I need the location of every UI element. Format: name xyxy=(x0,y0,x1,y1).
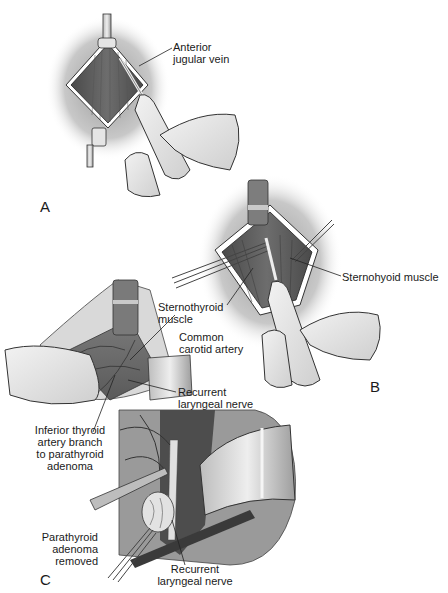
surgeon-thumb xyxy=(125,152,160,196)
surgical-illustration xyxy=(0,0,448,593)
panel-letter-a: A xyxy=(40,198,50,215)
label-recurrent-laryngeal-nerve-upper: Recurrent laryngeal nerve xyxy=(178,386,253,410)
lower-retractor xyxy=(92,128,106,146)
label-inferior-thyroid-artery-branch: Inferior thyroid artery branch to parath… xyxy=(20,424,120,472)
panel-letter-c: C xyxy=(40,571,51,588)
label-common-carotid-artery: Common carotid artery xyxy=(179,331,243,355)
label-sternohyoid-muscle: Sternohyoid muscle xyxy=(342,271,439,283)
parathyroid-adenoma xyxy=(142,492,174,532)
label-recurrent-laryngeal-nerve-lower: Recurrent laryngeal nerve xyxy=(150,563,240,587)
left-retractor-hand xyxy=(5,346,99,404)
label-parathyroid-adenoma-removed: Parathyroid adenoma removed xyxy=(20,531,98,567)
label-anterior-jugular-vein: Anterior jugular vein xyxy=(173,41,229,65)
upper-retractor xyxy=(113,280,138,335)
panel-letter-b: B xyxy=(370,378,380,395)
label-sternothyroid-muscle: Sternothyroid muscle xyxy=(158,301,223,325)
sternum-retractor xyxy=(248,180,268,225)
panel-c-inset-drawing xyxy=(90,410,296,582)
